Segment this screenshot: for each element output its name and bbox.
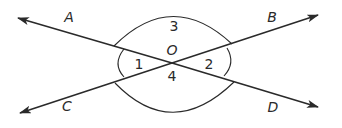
label-point-d: D bbox=[268, 99, 279, 115]
label-point-b: B bbox=[267, 9, 277, 25]
angle-arc-1 bbox=[118, 49, 124, 77]
angle-arc-2 bbox=[224, 48, 231, 76]
label-point-c: C bbox=[62, 98, 72, 114]
label-angle-3: 3 bbox=[170, 18, 179, 34]
label-point-o: O bbox=[166, 42, 177, 58]
label-angle-4: 4 bbox=[168, 68, 177, 84]
label-angle-1: 1 bbox=[135, 56, 144, 72]
angle-diagram: A B C D O 1 2 3 4 bbox=[0, 0, 342, 128]
diagram-canvas: A B C D O 1 2 3 4 bbox=[0, 0, 342, 128]
angle-arc-4 bbox=[115, 82, 234, 112]
label-point-a: A bbox=[63, 9, 74, 25]
line-od bbox=[172, 63, 318, 107]
line-ad bbox=[18, 18, 172, 63]
label-angle-2: 2 bbox=[205, 56, 214, 72]
line-ob bbox=[172, 15, 318, 63]
line-oc bbox=[20, 63, 172, 113]
